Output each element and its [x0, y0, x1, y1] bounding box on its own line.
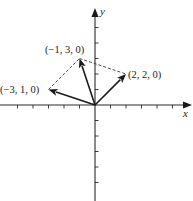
dashed-segment [80, 59, 127, 75]
vector-v2 [79, 59, 95, 106]
vector-label-neg1-3-0: (−1, 3, 0) [45, 44, 85, 56]
y-axis-label: y [99, 5, 105, 17]
x-axis-label: x [182, 107, 188, 119]
vector-v3 [95, 74, 126, 105]
y-axis-arrowhead-icon [92, 8, 99, 17]
vector-labels: (−3, 1, 0) (−1, 3, 0) (2, 2, 0) [0, 44, 162, 96]
vectors [49, 59, 127, 106]
vector-label-neg3-1-0: (−3, 1, 0) [0, 84, 40, 96]
vector-shaft [95, 80, 120, 105]
vector-label-2-2-0: (2, 2, 0) [128, 69, 162, 81]
vector-shaft [82, 66, 95, 105]
vector-shaft [56, 92, 95, 105]
dashed-segment [49, 59, 80, 90]
vector-v1 [49, 89, 96, 105]
vector-diagram: x y (−3, 1, 0) (−1, 3, 0) (2, 2, 0) [0, 0, 193, 201]
